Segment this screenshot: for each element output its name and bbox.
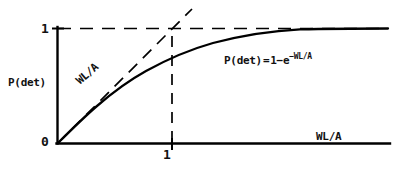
- y-axis-label: P(det): [8, 77, 46, 88]
- equation-exponent: −WL/A: [289, 52, 312, 61]
- x-tick-label-one: 1: [163, 148, 171, 161]
- x-axis-label: WL/A: [316, 131, 341, 142]
- y-tick-label-one: 1: [41, 22, 49, 35]
- detection-probability-figure: P(det) 1 0 1 WL/A WL/A P(det)=1−e−WL/A: [0, 0, 398, 169]
- equation-lhs: P(det): [224, 54, 262, 67]
- plot-area: [0, 0, 398, 169]
- origin-label: 0: [41, 135, 49, 148]
- exponential-curve: [58, 29, 388, 144]
- curve-equation-annotation: P(det)=1−e−WL/A: [224, 52, 312, 67]
